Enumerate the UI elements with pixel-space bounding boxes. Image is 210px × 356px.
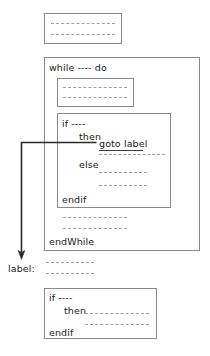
while-inner-statement-block [57,78,134,107]
while-trailing-code-line-2 [63,228,127,230]
goto-target-label: label: [8,263,35,274]
bottom-if-footer-label: endif [49,327,73,338]
label-code-line-2 [46,273,94,275]
while-if-then-code-line-1 [99,154,165,156]
while-if-else-code-line-1 [99,172,147,174]
while-inner-code-line-1 [63,87,127,89]
top-statement-code-line-1 [51,23,115,25]
goto-label-statement: goto label [99,138,147,149]
goto-label-underline [99,150,143,151]
while-if-footer-label: endif [62,194,86,205]
while-footer-label: endWhile [49,236,94,247]
top-statement-code-line-2 [51,34,115,36]
bottom-if-then-label: then [64,305,86,316]
while-inner-code-line-2 [63,97,127,99]
while-if-else-label: else [79,159,99,170]
while-if-else-code-line-2 [99,185,147,187]
pseudocode-flow-diagram: while ---- do if ---- then goto label el… [0,0,210,356]
goto-jump-arrowhead-icon [18,251,25,260]
label-code-line-1 [46,262,94,264]
bottom-if-then-code-line-1 [85,313,149,315]
while-header-label: while ---- do [49,62,107,73]
while-trailing-code-line-1 [63,217,127,219]
top-statement-block [44,13,122,44]
while-if-then-label: then [79,131,101,142]
while-if-header-label: if ---- [62,118,85,129]
bottom-if-then-code-line-2 [85,324,149,326]
bottom-if-header-label: if ---- [49,292,72,303]
